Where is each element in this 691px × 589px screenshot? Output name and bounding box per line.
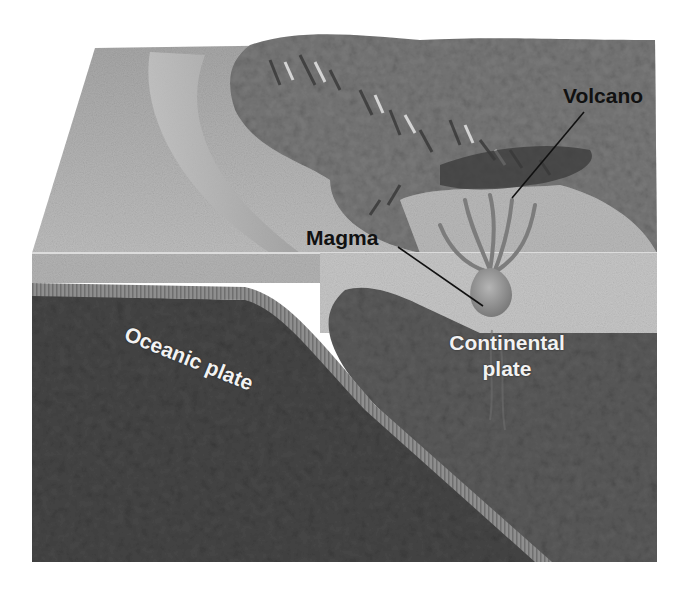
continental-plate-label: Continental plate: [432, 330, 582, 383]
continental-plate-label-line1: Continental: [432, 330, 582, 356]
magma-label: Magma: [306, 226, 378, 250]
subduction-diagram: Volcano Magma Oceanic plate Continental …: [0, 0, 691, 589]
volcano-label: Volcano: [563, 84, 643, 108]
continental-plate-label-line2: plate: [432, 356, 582, 382]
